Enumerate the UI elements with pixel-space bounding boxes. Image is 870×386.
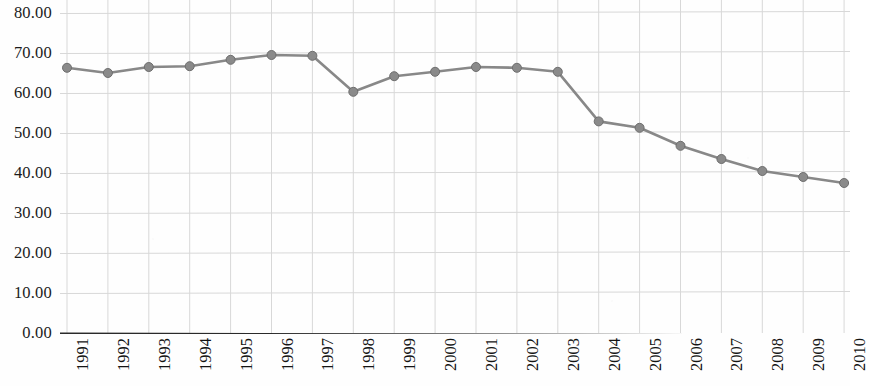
x-axis-tick-label: 2009 [809,338,829,371]
data-point-marker [349,87,358,96]
y-axis-tick-label: 20.00 [14,243,52,263]
x-axis-tick-label: 1992 [114,338,134,371]
axis-line-x [60,334,850,335]
x-axis-tick-label: 2006 [687,338,707,371]
gridline-horizontal [60,92,850,94]
data-point-marker [799,173,808,182]
data-point-marker [840,179,849,188]
plot-area [60,0,850,334]
gridline-horizontal [60,12,850,14]
data-point-marker [635,123,644,132]
data-point-marker [226,55,235,64]
data-point-marker [676,141,685,150]
x-axis-tick-label: 2008 [768,338,788,371]
x-axis-tick-label: 1996 [278,338,298,371]
y-axis-tick-label: 60.00 [14,83,52,103]
data-point-marker [390,72,399,81]
data-point-marker [267,51,276,60]
data-point-marker [472,63,481,72]
x-axis-tick-label: 2003 [564,338,584,371]
x-axis-tick-label: 2000 [441,338,461,371]
x-axis-tick-label: 2007 [727,338,747,371]
line-chart-svg [60,0,850,334]
x-axis-tick-label: 1991 [73,338,93,371]
data-point-marker [512,63,521,72]
x-axis-tick-label: 1993 [155,338,175,371]
x-axis-tick-label: 2004 [605,338,625,371]
series-line-series-1 [67,55,844,183]
x-axis-tick-label: 2010 [850,338,870,371]
y-axis-tick-label: 40.00 [14,163,52,183]
vertical-gridlines [67,0,844,333]
gridline-horizontal [60,212,850,214]
data-point-marker [758,167,767,176]
gridline-horizontal [60,52,850,54]
x-axis-tick-labels: 1991199219931994199519961997199819992000… [60,336,850,386]
data-point-marker [185,62,194,71]
data-point-marker [63,63,72,72]
data-line [67,55,844,183]
x-axis-baseline [60,334,850,335]
gridline-horizontal [60,292,850,294]
x-axis-tick-label: 2002 [523,338,543,371]
y-axis-tick-label: 50.00 [14,123,52,143]
x-axis-tick-label: 1995 [237,338,257,371]
y-axis-tick-label: 0.00 [22,323,52,343]
data-point-marker [553,67,562,76]
horizontal-gridlines [60,12,850,294]
x-axis-tick-label: 1994 [196,338,216,371]
gridline-horizontal [60,252,850,254]
x-axis-tick-label: 1999 [400,338,420,371]
y-axis-tick-label: 70.00 [14,43,52,63]
x-axis-tick-label: 1998 [359,338,379,371]
y-axis-tick-labels: 0.0010.0020.0030.0040.0050.0060.0070.008… [0,0,58,386]
data-point-marker [308,51,317,60]
data-point-marker [431,67,440,76]
x-axis-tick-label: 1997 [318,338,338,371]
data-point-marker [144,63,153,72]
x-axis-tick-label: 2005 [646,338,666,371]
data-point-marker [103,69,112,78]
y-axis-tick-label: 10.00 [14,283,52,303]
data-point-marker [717,155,726,164]
y-axis-tick-label: 80.00 [14,3,52,23]
y-axis-tick-label: 30.00 [14,203,52,223]
data-point-markers [63,51,849,188]
gridline-horizontal [60,172,850,174]
x-axis-tick-label: 2001 [482,338,502,371]
data-point-marker [594,117,603,126]
gridline-horizontal [60,132,850,134]
